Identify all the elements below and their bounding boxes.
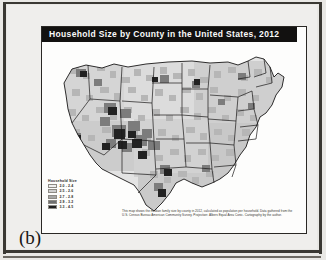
- legend-label-3: 2.7 - 2.8: [60, 195, 74, 199]
- map-source-note: This map shows the median family size by…: [122, 209, 298, 218]
- legend-swatch-5: [48, 205, 57, 209]
- frame-right-edge: [319, 2, 322, 254]
- legend-item: 2.0 - 2.4: [48, 184, 96, 188]
- map-title-bar: Household Size by County in the United S…: [42, 27, 297, 42]
- legend-title: Household Size: [48, 179, 96, 183]
- legend-label-4: 2.9 - 3.2: [60, 200, 74, 204]
- frame-left-edge: [3, 2, 6, 254]
- frame-top-edge: [3, 2, 321, 4]
- legend-item: 2.5 - 2.6: [48, 189, 96, 193]
- map-title: Household Size by County in the United S…: [49, 29, 279, 39]
- map-legend: Household Size 2.0 - 2.4 2.5 - 2.6 2.7 -…: [48, 179, 96, 210]
- legend-item: 2.9 - 3.2: [48, 199, 96, 203]
- source-note-line-2: U.S. Census Bureau American Community Su…: [122, 213, 298, 217]
- figure-paper: Household Size by County in the United S…: [7, 5, 317, 249]
- figure-label: (b): [19, 227, 41, 249]
- legend-label-2: 2.5 - 2.6: [60, 189, 74, 193]
- legend-swatch-3: [48, 195, 57, 199]
- map-panel: Household Size by County in the United S…: [41, 26, 307, 234]
- frame-bottom-rule: [3, 256, 321, 258]
- legend-item: 2.7 - 2.8: [48, 194, 96, 198]
- legend-label-5: 3.3 - 4.5: [60, 205, 74, 209]
- figure-container: Household Size by County in the United S…: [0, 0, 326, 260]
- legend-swatch-4: [48, 200, 57, 204]
- legend-label-1: 2.0 - 2.4: [60, 184, 74, 188]
- legend-item: 3.3 - 4.5: [48, 205, 96, 209]
- legend-swatch-2: [48, 189, 57, 193]
- legend-swatch-1: [48, 184, 57, 188]
- frame-bottom-edge: [3, 250, 321, 253]
